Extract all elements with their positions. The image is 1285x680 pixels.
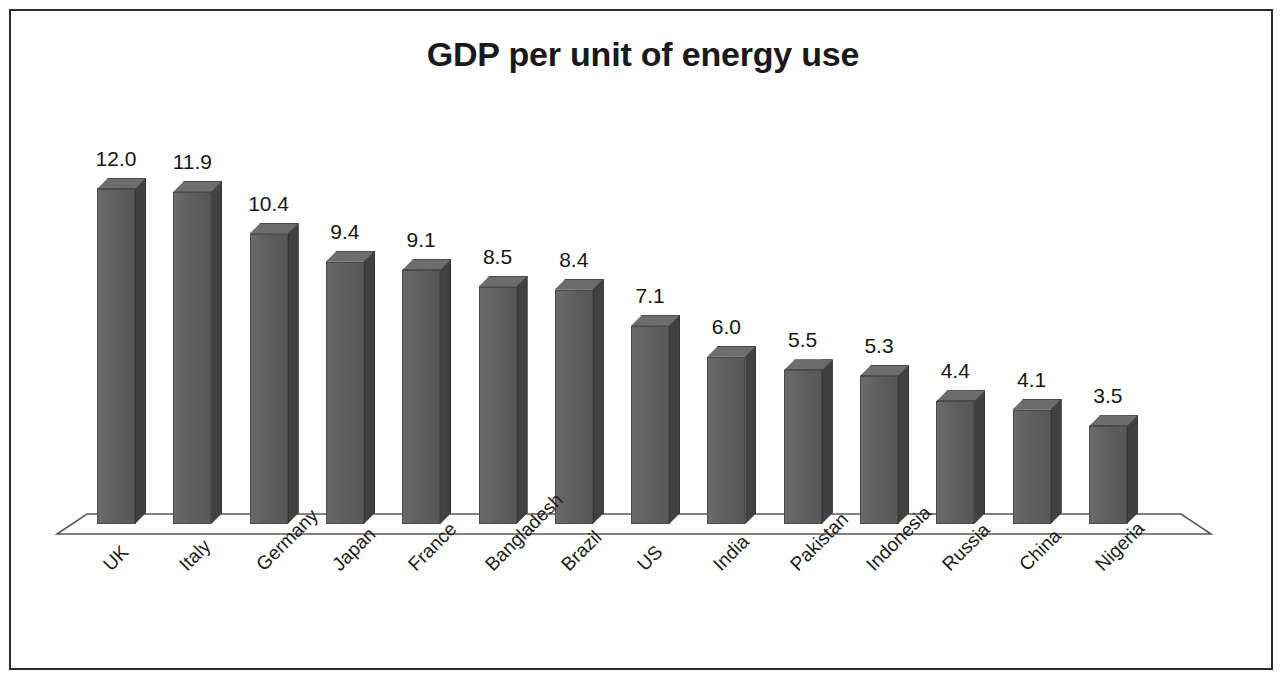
bar-front-face — [707, 357, 745, 525]
bar-side-face — [135, 178, 146, 524]
bar-side-face — [593, 279, 604, 525]
bar-front-face — [250, 234, 288, 524]
bar-group[interactable] — [479, 11, 528, 672]
bar-front-face — [1013, 410, 1051, 524]
figure-frame: GDP per unit of energy use 12.011.910.49… — [9, 9, 1273, 670]
bar-group[interactable] — [555, 11, 604, 672]
bar-side-face — [288, 223, 299, 524]
bar-side-face — [898, 365, 909, 524]
bar-group[interactable] — [250, 11, 299, 672]
bar-value-label: 5.5 — [768, 328, 838, 352]
plot-area: 12.011.910.49.49.18.58.47.16.05.55.34.44… — [11, 11, 1275, 672]
bar-front-face — [784, 370, 822, 524]
bar-value-label: 12.0 — [81, 147, 151, 171]
bar-value-label: 10.4 — [234, 192, 304, 216]
bar-value-label: 6.0 — [691, 315, 761, 339]
bar-value-label: 8.5 — [463, 245, 533, 269]
bar-value-label: 9.4 — [310, 220, 380, 244]
bar-value-label: 3.5 — [1073, 384, 1143, 408]
bar-front-face — [326, 262, 364, 524]
bar-value-label: 7.1 — [615, 284, 685, 308]
bar-value-label: 4.1 — [997, 368, 1067, 392]
bar-side-face — [669, 315, 680, 524]
bar-value-label: 5.3 — [844, 334, 914, 358]
bar-side-face — [974, 390, 985, 524]
bar-group[interactable] — [936, 11, 985, 672]
bar-front-face — [555, 290, 593, 525]
bar-value-label: 11.9 — [157, 150, 227, 174]
bar-front-face — [97, 189, 135, 524]
bar-side-face — [364, 251, 375, 524]
bar-front-face — [860, 376, 898, 524]
bar-side-face — [745, 346, 756, 525]
bar-side-face — [211, 181, 222, 524]
chart-page: GDP per unit of energy use 12.011.910.49… — [0, 0, 1285, 680]
bar-side-face — [1127, 415, 1138, 524]
bar-side-face — [440, 259, 451, 524]
bar-group[interactable] — [97, 11, 146, 672]
bar-value-label: 8.4 — [539, 248, 609, 272]
bar-front-face — [479, 287, 517, 524]
bar-front-face — [173, 192, 211, 524]
bar-side-face — [517, 276, 528, 524]
bar-group[interactable] — [707, 11, 756, 672]
bar-front-face — [631, 326, 669, 524]
bar-group[interactable] — [173, 11, 222, 672]
bar-side-face — [822, 359, 833, 524]
bar-front-face — [1089, 426, 1127, 524]
bar-value-label: 4.4 — [920, 359, 990, 383]
bar-group[interactable] — [1089, 11, 1138, 672]
bar-group[interactable] — [1013, 11, 1062, 672]
bar-side-face — [1051, 399, 1062, 524]
bar-value-label: 9.1 — [386, 228, 456, 252]
bar-front-face — [402, 270, 440, 524]
bar-group[interactable] — [402, 11, 451, 672]
bar-front-face — [936, 401, 974, 524]
bar-group[interactable] — [631, 11, 680, 672]
bar-group[interactable] — [326, 11, 375, 672]
